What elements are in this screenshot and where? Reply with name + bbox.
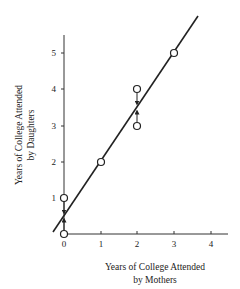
y-axis-title: Years of College Attended: [14, 85, 24, 185]
y-tick-label: 5: [52, 48, 57, 58]
y-tick-label: 3: [52, 121, 57, 131]
data-point: [61, 195, 68, 202]
data-point: [61, 231, 68, 238]
x-tick-label: 0: [62, 239, 67, 249]
regression-line: [53, 16, 198, 232]
x-tick-label: 2: [135, 239, 140, 249]
y-tick-label: 2: [52, 157, 57, 167]
scatter-chart: 5 4 3 2 1 0 1 2 3 4 Years: [0, 0, 240, 289]
data-point: [171, 50, 178, 57]
data-point: [134, 123, 141, 130]
x-tick-label: 4: [209, 239, 214, 249]
y-axis-title-group: Years of College Attended by Daughters: [14, 85, 36, 185]
data-point: [134, 86, 141, 93]
x-axis-title: by Mothers: [133, 275, 177, 285]
x-tick-label: 1: [99, 239, 104, 249]
data-point: [98, 159, 105, 166]
y-tick-label: 4: [52, 84, 57, 94]
y-ticks: 5 4 3 2 1: [52, 48, 65, 203]
data-points: [61, 50, 178, 238]
y-tick-label: 1: [52, 193, 57, 203]
x-tick-label: 3: [172, 239, 177, 249]
x-axis-title: Years of College Attended: [105, 262, 205, 272]
y-axis-title: by Daughters: [26, 109, 36, 160]
